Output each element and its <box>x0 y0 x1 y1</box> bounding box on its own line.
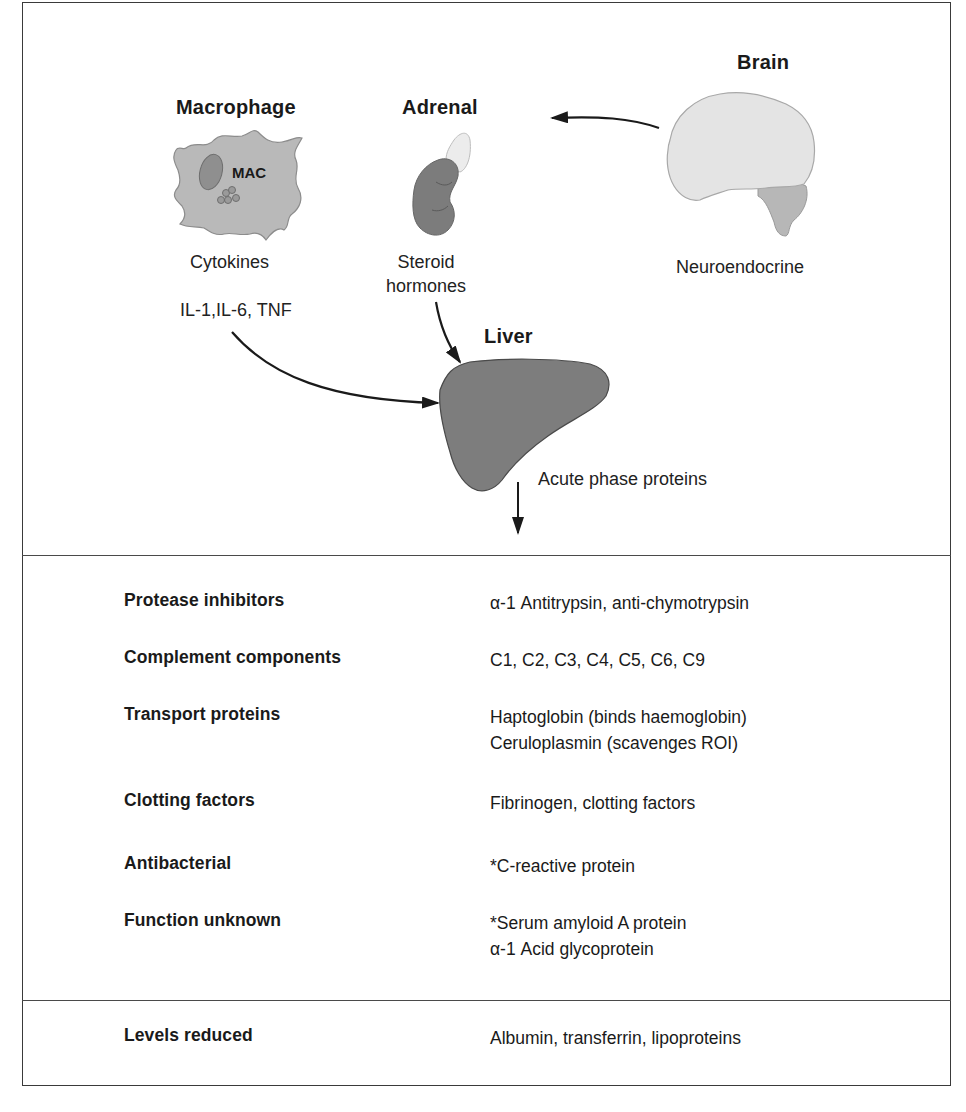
row-category: Complement components <box>124 647 341 668</box>
protein-item: Fibrinogen, clotting factors <box>490 790 695 816</box>
arrow-macrophage-to-liver <box>232 332 438 403</box>
row-category: Clotting factors <box>124 790 255 811</box>
row-category: Levels reduced <box>124 1025 253 1046</box>
adrenal-title: Adrenal <box>402 96 478 119</box>
protein-item: Haptoglobin (binds haemoglobin) <box>490 704 747 730</box>
adrenal-gland-icon <box>413 133 471 235</box>
row-category: Transport proteins <box>124 704 280 725</box>
pathway-diagram <box>0 0 966 560</box>
row-proteins: Albumin, transferrin, lipoproteins <box>490 1025 741 1051</box>
steroid-hormones-label: Steroid hormones <box>378 250 474 298</box>
protein-item: *Serum amyloid A protein <box>490 910 687 936</box>
row-proteins: C1, C2, C3, C4, C5, C6, C9 <box>490 647 705 673</box>
arrow-brain-to-adrenal <box>552 117 659 128</box>
brain-title: Brain <box>737 51 789 74</box>
mac-cell-label: MAC <box>232 164 266 181</box>
acute-phase-proteins-label: Acute phase proteins <box>538 467 707 491</box>
protein-item: Ceruloplasmin (scavenges ROI) <box>490 730 747 756</box>
row-proteins: *C-reactive protein <box>490 853 635 879</box>
brain-icon <box>667 93 814 236</box>
steroid-label-line1: Steroid <box>378 250 474 274</box>
protein-item: α-1 Acid glycoprotein <box>490 936 687 962</box>
row-category: Protease inhibitors <box>124 590 284 611</box>
liver-title: Liver <box>484 325 533 348</box>
protein-item: α-1 Antitrypsin, anti-chymotrypsin <box>490 590 749 616</box>
divider-reduced-section <box>22 1000 951 1001</box>
macrophage-cell-icon <box>174 131 302 240</box>
macrophage-title: Macrophage <box>176 96 296 119</box>
row-proteins: α-1 Antitrypsin, anti-chymotrypsin <box>490 590 749 616</box>
neuroendocrine-label: Neuroendocrine <box>676 255 804 279</box>
protein-item: Albumin, transferrin, lipoproteins <box>490 1025 741 1051</box>
row-proteins: Fibrinogen, clotting factors <box>490 790 695 816</box>
protein-item: C1, C2, C3, C4, C5, C6, C9 <box>490 647 705 673</box>
row-category: Function unknown <box>124 910 281 931</box>
steroid-label-line2: hormones <box>378 274 474 298</box>
row-proteins: Haptoglobin (binds haemoglobin) Cerulopl… <box>490 704 747 756</box>
cytokines-label: Cytokines <box>190 250 269 274</box>
row-category: Antibacterial <box>124 853 231 874</box>
protein-item: *C-reactive protein <box>490 853 635 879</box>
row-proteins: *Serum amyloid A protein α-1 Acid glycop… <box>490 910 687 962</box>
cytokine-mediators-label: IL-1,IL-6, TNF <box>180 298 292 322</box>
arrow-adrenal-to-liver <box>436 302 460 362</box>
